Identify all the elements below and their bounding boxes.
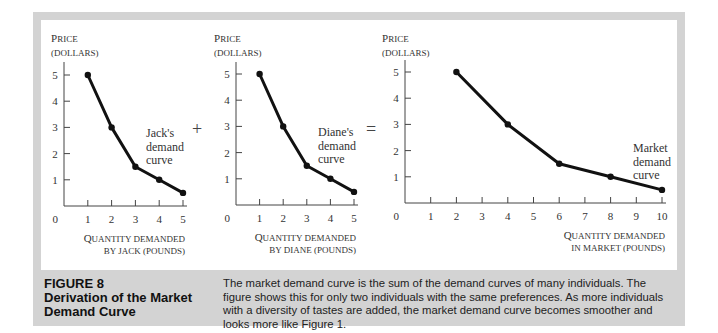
data-point (280, 123, 286, 129)
curve-annotation: curve (146, 153, 173, 167)
y-axis-title: PRICE (51, 32, 78, 44)
x-tick-label: 5 (531, 210, 537, 222)
x-tick-label: 8 (608, 210, 614, 222)
y-tick-label: 1 (393, 171, 399, 183)
x-axis-unit: BY JACK (POUNDS) (104, 246, 185, 256)
curve-annotation: curve (318, 152, 345, 166)
curve-annotation: Market (633, 141, 668, 155)
curve-annotation: Jack's (146, 126, 174, 140)
x-tick-label: 4 (505, 210, 511, 222)
y-tick-label: 4 (52, 95, 58, 107)
y-tick-label: 5 (52, 69, 58, 81)
data-point (85, 72, 91, 78)
y-tick-label: 1 (224, 173, 230, 185)
y-tick-label: 3 (393, 118, 399, 130)
y-tick-label: 1 (52, 174, 58, 186)
data-point (132, 164, 138, 170)
curve-annotation: demand (146, 140, 184, 154)
y-tick-label: 3 (224, 120, 230, 132)
x-axis-title: QUANTITY DEMANDED (84, 232, 186, 244)
data-point (327, 176, 333, 182)
y-tick-label: 5 (224, 68, 230, 80)
y-axis-unit: (DOLLARS) (214, 48, 262, 58)
origin-label: 0 (225, 212, 231, 224)
curve-annotation: Diane's (318, 125, 354, 139)
x-tick-label: 1 (428, 210, 434, 222)
x-axis-title: QUANTITY DEMANDED (255, 231, 357, 243)
figure-title: FIGURE 8 Derivation of the Market Demand… (44, 277, 244, 319)
y-axis-title: PRICE (214, 32, 241, 44)
data-point (156, 177, 162, 183)
x-axis-unit: BY DIANE (POUNDS) (269, 245, 356, 255)
equals-sign: = (366, 119, 376, 139)
data-point (556, 161, 562, 167)
demand-curve (456, 72, 662, 190)
x-axis-unit: IN MARKET (POUNDS) (571, 243, 665, 253)
origin-label: 0 (53, 213, 59, 225)
y-tick-label: 4 (224, 94, 230, 106)
y-axis-unit: (DOLLARS) (382, 48, 430, 58)
figure-title-line1: Derivation of the Market (44, 291, 244, 305)
y-axis-unit: (DOLLARS) (51, 48, 99, 58)
x-tick-label: 3 (304, 212, 310, 224)
data-point (453, 69, 459, 75)
jack-demand-chart: 12345123450PRICE(DOLLARS)QUANTITY DEMAND… (51, 32, 187, 256)
x-tick-label: 3 (479, 210, 485, 222)
y-axis-title: PRICE (382, 32, 409, 44)
data-point (659, 187, 665, 193)
x-tick-label: 7 (582, 210, 588, 222)
y-tick-label: 4 (393, 92, 399, 104)
y-tick-label: 2 (224, 147, 230, 159)
x-axis-title: QUANTITY DEMANDED (564, 229, 666, 241)
figure-caption: The market demand curve is the sum of th… (223, 277, 673, 331)
y-tick-label: 5 (393, 66, 399, 78)
x-tick-label: 2 (454, 210, 460, 222)
x-tick-label: 1 (257, 212, 263, 224)
curve-annotation: demand (633, 155, 671, 169)
data-point (256, 71, 262, 77)
data-point (351, 189, 357, 195)
x-tick-label: 5 (180, 213, 186, 225)
x-tick-label: 4 (156, 213, 162, 225)
data-point (304, 163, 310, 169)
data-point (180, 190, 186, 196)
figure-number: FIGURE 8 (44, 277, 244, 291)
curve-annotation: demand (318, 139, 356, 153)
x-tick-label: 10 (657, 210, 669, 222)
x-tick-label: 4 (328, 212, 334, 224)
plus-sign: + (192, 119, 202, 139)
data-point (607, 174, 613, 180)
data-point (108, 124, 114, 130)
curve-annotation: curve (633, 168, 660, 182)
x-tick-label: 1 (85, 213, 91, 225)
x-tick-label: 5 (351, 212, 357, 224)
y-tick-label: 3 (52, 121, 58, 133)
x-tick-label: 3 (133, 213, 139, 225)
x-tick-label: 9 (634, 210, 640, 222)
origin-label: 0 (394, 210, 400, 222)
y-tick-label: 2 (52, 148, 58, 160)
data-point (505, 121, 511, 127)
x-tick-label: 2 (109, 213, 115, 225)
market-demand-chart: 12345123456789100PRICE(DOLLARS)QUANTITY … (382, 32, 671, 253)
x-tick-label: 6 (556, 210, 562, 222)
figure-title-line2: Demand Curve (44, 305, 244, 319)
y-tick-label: 2 (393, 145, 399, 157)
diane-demand-chart: 12345123450PRICE(DOLLARS)QUANTITY DEMAND… (214, 32, 358, 255)
x-tick-label: 2 (280, 212, 286, 224)
